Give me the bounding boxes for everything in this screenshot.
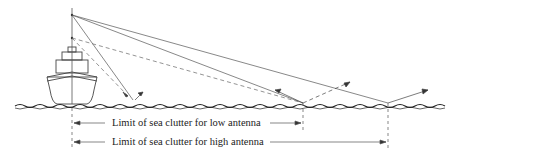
sea-clutter-diagram: [0, 0, 545, 159]
low-antenna-rays: [72, 38, 303, 103]
high-antenna-rays: [72, 15, 388, 103]
low-antenna-limit-label: Limit of sea clutter for low antenna: [112, 117, 261, 129]
high-antenna-limit-label: Limit of sea clutter for high antenna: [112, 136, 264, 148]
sea-surface: [15, 105, 445, 110]
